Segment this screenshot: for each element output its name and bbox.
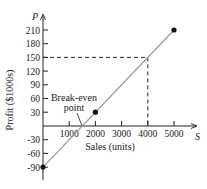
svg-text:210: 210 — [26, 26, 41, 36]
svg-text:-30: -30 — [27, 135, 40, 145]
svg-text:180: 180 — [26, 39, 41, 49]
x-axis-label: Sales (units) — [85, 141, 135, 153]
svg-text:-60: -60 — [27, 149, 40, 159]
svg-text:3000: 3000 — [112, 129, 131, 139]
data-point — [171, 27, 176, 32]
svg-text:4000: 4000 — [138, 129, 157, 139]
y-axis-var: P — [31, 11, 38, 22]
svg-text:150: 150 — [26, 53, 41, 63]
svg-text:30: 30 — [31, 108, 41, 118]
svg-text:90: 90 — [31, 80, 41, 90]
break-even-pointer — [77, 113, 82, 126]
y-tick-labels: 210 180 150 120 90 60 30 -30 -60 -90 — [26, 26, 41, 173]
data-point — [93, 110, 98, 115]
data-point — [40, 165, 45, 170]
svg-text:60: 60 — [31, 94, 41, 104]
x-axis-var: S — [195, 131, 200, 142]
svg-text:120: 120 — [26, 67, 41, 77]
svg-text:-90: -90 — [27, 163, 40, 173]
svg-text:1000: 1000 — [60, 129, 79, 139]
y-ticks — [43, 30, 48, 167]
y-axis-label: Profit ($1000s) — [4, 70, 16, 131]
break-even-chart: P S 210 180 150 120 90 60 30 -30 -60 -90… — [0, 0, 207, 189]
svg-text:5000: 5000 — [165, 129, 184, 139]
break-even-label-line2: point — [64, 102, 85, 113]
svg-text:2000: 2000 — [86, 129, 105, 139]
